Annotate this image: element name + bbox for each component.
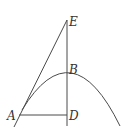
label-d: D [68, 109, 79, 123]
label-e: E [68, 15, 78, 29]
label-b: B [68, 63, 78, 77]
label-a: A [6, 109, 16, 123]
geometry-figure: E B D A [0, 0, 129, 136]
